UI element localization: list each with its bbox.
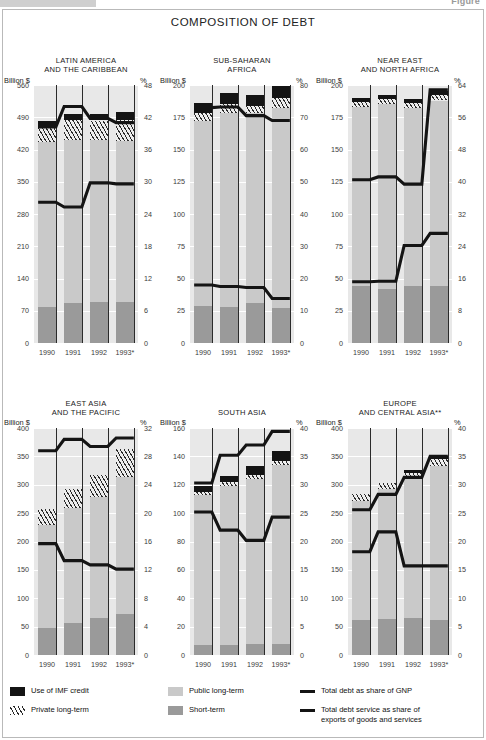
bar-separator: [448, 428, 449, 655]
x-tick-label: 1990: [190, 660, 216, 669]
bar-segment-public-long-term: [38, 525, 56, 628]
panel-title-line: EUROPE: [296, 399, 486, 408]
bar-separator: [264, 85, 265, 343]
gridline: [190, 428, 294, 429]
y2-tick-label: 35: [458, 452, 466, 461]
y2-tick-label: 48: [458, 145, 466, 154]
bar-segment-use-of-imf-credit: [404, 99, 422, 103]
stacked-bar: [194, 486, 212, 655]
y2-tick-label: 40: [300, 424, 308, 433]
bar-segment-private-long-term: [272, 98, 290, 108]
bar-segment-private-long-term: [220, 482, 238, 486]
bar-segment-private-long-term: [194, 492, 212, 495]
plot-area-sub-saharan-africa: [190, 85, 294, 343]
plot-area-south-asia: [190, 428, 294, 655]
bar-segment-private-long-term: [378, 99, 396, 104]
bar-segment-public-long-term: [430, 101, 448, 287]
bar-segment-short-term: [194, 645, 212, 655]
x-tick-label: 1991: [60, 348, 86, 357]
bar-separator: [108, 428, 109, 655]
y-tick-label: 0: [314, 651, 343, 660]
panel-title-europe-central-asia: EUROPEAND CENTRAL ASIA**: [296, 399, 486, 417]
bar-separator: [56, 85, 57, 343]
bar-separator: [370, 428, 371, 655]
y-tick-label: 140: [156, 452, 185, 461]
y-tick-label: 280: [0, 210, 29, 219]
y2-tick-label: 0: [458, 339, 462, 348]
x-tick-label: 1993*: [268, 348, 294, 357]
bar-segment-private-long-term: [352, 102, 370, 107]
y2-tick-label: 24: [458, 242, 466, 251]
bar-segment-public-long-term: [194, 121, 212, 305]
bar-segment-public-long-term: [430, 466, 448, 620]
y-tick-label: 400: [0, 424, 29, 433]
y-tick-label: 75: [314, 242, 343, 251]
bar-separator: [448, 85, 449, 343]
y2-tick-label: 6: [144, 306, 148, 315]
bar-segment-use-of-imf-credit: [430, 456, 448, 459]
bar-segment-public-long-term: [272, 465, 290, 644]
y-tick-label: 560: [0, 81, 29, 90]
y2-tick-label: 70: [300, 113, 308, 122]
x-tick-label: 1991: [216, 348, 242, 357]
y2-tick-label: 35: [300, 452, 308, 461]
stacked-bar: [90, 475, 108, 655]
bar-segment-private-long-term: [404, 473, 422, 479]
y-tick-label: 175: [156, 113, 185, 122]
y2-tick-label: 0: [144, 339, 148, 348]
bar-segment-private-long-term: [220, 104, 238, 113]
bar-segment-private-long-term: [246, 475, 264, 479]
y-tick-label: 0: [156, 339, 185, 348]
bar-segment-private-long-term: [404, 103, 422, 108]
y-tick-label: 100: [156, 210, 185, 219]
y-tick-label: 50: [156, 274, 185, 283]
x-tick-label: 1990: [348, 660, 374, 669]
y-tick-label: 350: [0, 177, 29, 186]
y-tick-label: 60: [156, 565, 185, 574]
bar-segment-public-long-term: [352, 107, 370, 286]
page-title: COMPOSITION OF DEBT: [0, 16, 486, 28]
x-tick-label: 1991: [60, 660, 86, 669]
y2-tick-label: 0: [300, 339, 304, 348]
bar-segment-short-term: [378, 619, 396, 655]
x-tick-label: 1993*: [268, 660, 294, 669]
y2-tick-label: 40: [458, 177, 466, 186]
bar-segment-short-term: [38, 307, 56, 343]
y-tick-label: 0: [0, 651, 29, 660]
stacked-bar: [90, 114, 108, 343]
stacked-bar: [246, 466, 264, 655]
y-tick-label: 40: [156, 594, 185, 603]
bar-segment-use-of-imf-credit: [116, 112, 134, 119]
bar-segment-private-long-term: [90, 121, 108, 141]
bar-separator: [134, 428, 135, 655]
bar-separator: [396, 428, 397, 655]
bar-segment-short-term: [430, 286, 448, 343]
panel-title-line: AND NORTH AFRICA: [296, 65, 486, 74]
bar-segment-public-long-term: [194, 495, 212, 645]
bar-segment-short-term: [352, 286, 370, 343]
stacked-bar: [272, 86, 290, 343]
figure-label: Figure: [451, 0, 480, 6]
bar-segment-short-term: [220, 645, 238, 655]
stacked-bar: [378, 95, 396, 343]
y2-tick-label: 0: [144, 651, 148, 660]
bar-separator: [264, 428, 265, 655]
y-tick-label: 200: [314, 81, 343, 90]
y2-tick-label: 16: [144, 537, 152, 546]
y-tick-label: 0: [314, 339, 343, 348]
y2-tick-label: 40: [300, 210, 308, 219]
bar-segment-private-long-term: [378, 483, 396, 489]
bar-segment-short-term: [38, 628, 56, 655]
bar-segment-public-long-term: [404, 108, 422, 286]
bar-separator: [396, 85, 397, 343]
bar-separator: [422, 428, 423, 655]
y-tick-label: 300: [314, 480, 343, 489]
bar-segment-short-term: [404, 618, 422, 655]
x-tick-label: 1992: [242, 348, 268, 357]
stacked-bar: [220, 476, 238, 655]
bar-segment-private-long-term: [352, 494, 370, 501]
y-tick-label: 75: [156, 242, 185, 251]
bar-separator: [238, 85, 239, 343]
y-tick-label: 300: [0, 480, 29, 489]
y-tick-label: 0: [156, 651, 185, 660]
